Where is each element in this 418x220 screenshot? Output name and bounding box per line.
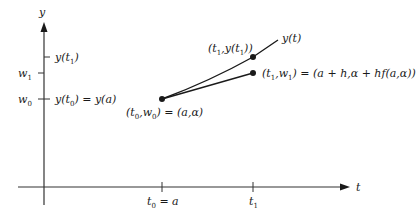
label-point-exact: (t1,y(t1)) <box>208 42 253 57</box>
label-point-start: (t0,w0) = (a,α) <box>126 106 203 121</box>
label-w0: w0 <box>18 93 32 108</box>
point-start <box>159 96 165 102</box>
label-t0: t0 = a <box>147 195 179 210</box>
label-y-t0: y(t0) = y(a) <box>54 93 116 108</box>
euler-diagram: y t y(t1) w1 w0 y(t0) = y(a) t0 = a t1 y… <box>0 0 418 220</box>
y-axis-label: y <box>38 6 46 19</box>
euler-step-line <box>162 73 253 99</box>
label-t1: t1 <box>249 195 258 210</box>
label-w1: w1 <box>18 67 32 82</box>
label-y-t1: y(t1) <box>54 51 79 66</box>
label-point-approx: (t1,w1) = (a + h,α + hf(a,α)) <box>262 67 416 82</box>
y-axis-arrow-icon <box>41 22 48 32</box>
t-axis-arrow-icon <box>340 184 350 191</box>
point-approx <box>250 70 256 76</box>
t-axis-label: t <box>356 181 361 194</box>
label-curve: y(t) <box>281 32 301 45</box>
